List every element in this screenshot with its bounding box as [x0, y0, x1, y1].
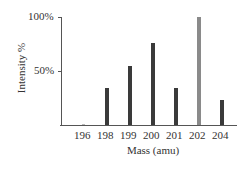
bar-199 [128, 66, 132, 125]
y-axis-label: Intensity % [15, 33, 27, 103]
y-tick-label-50: 50% [34, 64, 54, 76]
x-tick-label-202: 202 [189, 129, 206, 141]
x-tick-label-199: 199 [120, 129, 137, 141]
bar-196 [82, 124, 85, 125]
x-tick-label-198: 198 [97, 129, 114, 141]
x-tick-label-196: 196 [74, 129, 91, 141]
bar-202 [197, 17, 201, 125]
y-tick-label-100: 100% [28, 10, 54, 22]
bar-198 [105, 88, 109, 125]
x-tick-label-201: 201 [166, 129, 183, 141]
x-axis-label: Mass (amu) [100, 144, 206, 156]
bar-200 [151, 43, 155, 125]
x-axis [60, 125, 237, 126]
bar-chart: 100% 50% Intensity % 1961981992002012022… [0, 0, 245, 170]
x-tick-label-200: 200 [143, 129, 160, 141]
bar-201 [174, 88, 178, 125]
bar-204 [220, 100, 224, 125]
y-tick-100 [58, 17, 62, 18]
y-tick-50 [58, 71, 62, 72]
x-tick-label-204: 204 [212, 129, 229, 141]
